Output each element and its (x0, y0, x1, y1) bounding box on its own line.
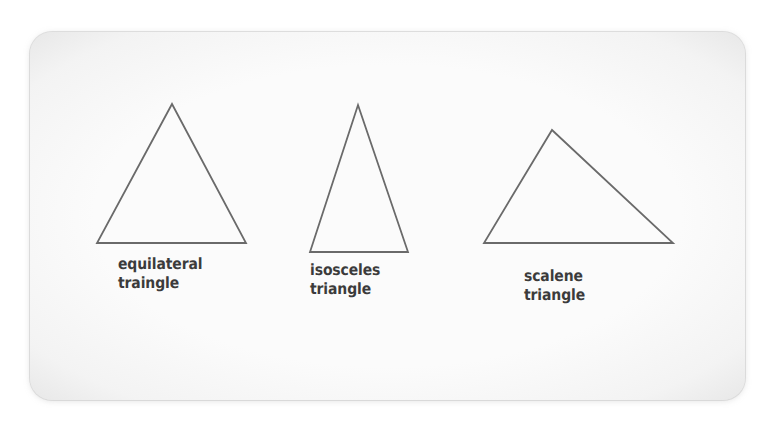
scalene-triangle-label: scalene triangle (524, 267, 585, 305)
equilateral-triangle-label: equilateral traingle (118, 255, 202, 293)
isosceles-triangle-label: isosceles triangle (310, 261, 380, 299)
equilateral-label-line-1: equilateral (118, 255, 202, 274)
equilateral-triangle-shape (97, 104, 246, 243)
isosceles-triangle-shape (310, 105, 408, 252)
scalene-triangle-shape (484, 130, 673, 243)
scalene-label-line-2: triangle (524, 286, 585, 305)
isosceles-label-line-1: isosceles (310, 261, 380, 280)
isosceles-label-line-2: triangle (310, 280, 380, 299)
equilateral-label-line-2: traingle (118, 274, 202, 293)
triangles-drawing (0, 0, 771, 434)
scalene-label-line-1: scalene (524, 267, 585, 286)
